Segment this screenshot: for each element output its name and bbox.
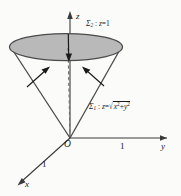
disk-ellipse — [10, 34, 123, 61]
origin-label: O — [64, 140, 71, 150]
radicand-y-exponent: 2 — [127, 101, 130, 107]
cone-diagram-svg — [0, 0, 181, 196]
normal-left-shaft — [27, 70, 46, 87]
y-axis — [70, 135, 167, 140]
y-axis-label: y — [161, 142, 165, 151]
x-axis-tick-label: 1 — [42, 160, 47, 169]
normal-arrow-right — [82, 67, 104, 87]
figure-canvas: z y 1 x 1 O Σ2 : z=1 Σ1 : z=√x2+y2 — [0, 0, 181, 196]
x-axis-label: x — [25, 180, 29, 189]
radical-sign-icon: √ — [109, 101, 113, 111]
sigma1-radical: √x2+y2 — [109, 101, 130, 110]
sigma2-value: 1 — [106, 19, 110, 28]
disk-surface — [10, 34, 123, 61]
y-axis-arrowhead — [160, 135, 167, 140]
y-axis-tick-label: 1 — [120, 142, 125, 151]
normal-right-shaft — [86, 70, 104, 86]
radicand: x2+y2 — [113, 101, 130, 110]
z-axis-label: z — [76, 12, 80, 21]
sigma2-surface-label: Σ2 : z=1 — [86, 20, 110, 28]
z-axis-arrowhead — [67, 11, 73, 19]
sigma1-surface-label: Σ1 : z=√x2+y2 — [89, 101, 130, 111]
